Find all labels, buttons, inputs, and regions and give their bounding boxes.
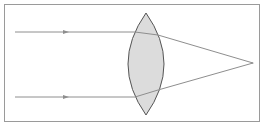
lens-diagram bbox=[0, 0, 262, 125]
focal-point bbox=[252, 62, 253, 63]
